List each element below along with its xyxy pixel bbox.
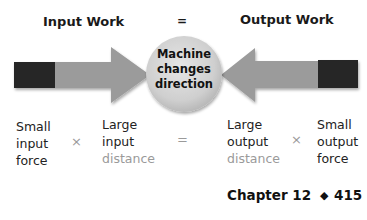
diamond-bullet-icon: ◆ [320, 189, 328, 202]
output-arrow [221, 48, 358, 102]
machine-label-line: Machine [146, 47, 222, 62]
machine-label-line: direction [146, 77, 222, 92]
machine-direction-diagram [0, 0, 367, 220]
small-output-force-term: Small output force [317, 116, 358, 167]
term-line: distance [102, 150, 155, 167]
multiply-sign: × [71, 134, 82, 149]
term-line: input [16, 135, 51, 152]
term-line: Large [227, 116, 280, 133]
term-line: output [227, 133, 280, 150]
chapter-label: Chapter 12 [227, 187, 311, 203]
term-line: Small [317, 116, 358, 133]
page-number: 415 [334, 187, 362, 203]
term-line: input [102, 133, 155, 150]
large-output-distance-term: Large output distance [227, 116, 280, 167]
term-line: distance [227, 150, 280, 167]
large-input-distance-term: Large input distance [102, 116, 155, 167]
term-line: Small [16, 118, 51, 135]
input-arrow [14, 47, 150, 103]
small-input-force-term: Small input force [16, 118, 51, 169]
equals-sign: = [177, 132, 188, 147]
machine-label-line: changes [146, 62, 222, 77]
term-line: Large [102, 116, 155, 133]
term-line: output [317, 133, 358, 150]
term-line: force [16, 152, 51, 169]
multiply-sign: × [291, 132, 302, 147]
machine-label: Machine changes direction [146, 47, 222, 92]
term-line: force [317, 150, 358, 167]
